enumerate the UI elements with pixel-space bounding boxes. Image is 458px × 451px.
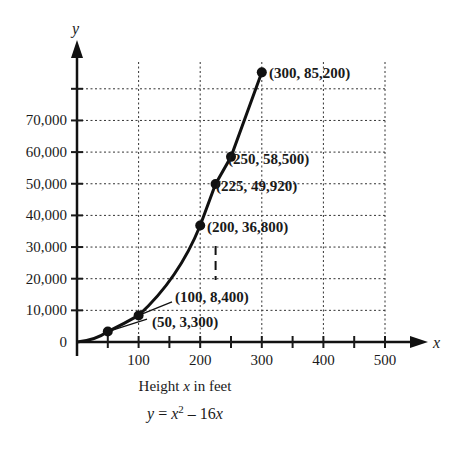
- y-tick-label: 50,000: [26, 176, 67, 192]
- data-point: [134, 310, 144, 320]
- point-label: (200, 36,800): [207, 219, 288, 236]
- x-tick-label: 100: [127, 352, 150, 368]
- y-tick-label: 0: [60, 334, 68, 350]
- point-label: (225, 49,920): [216, 178, 297, 195]
- y-tick-label: 30,000: [26, 239, 67, 255]
- x-axis-arrow-icon: [410, 336, 428, 348]
- point-label: (250, 58,500): [228, 151, 309, 168]
- point-label: (300, 85,200): [269, 65, 350, 82]
- x-axis-title: Height x in feet: [25, 378, 345, 395]
- x-tick-label: 200: [189, 352, 212, 368]
- y-axis-var: y: [70, 20, 80, 38]
- y-tick-label: 10,000: [26, 302, 67, 318]
- data-point: [103, 327, 113, 337]
- y-tick-label: 60,000: [26, 144, 67, 160]
- point-label: (100, 8,400): [175, 289, 249, 306]
- y-tick-label: 20,000: [26, 271, 67, 287]
- y-tick-label: 70,000: [26, 112, 67, 128]
- y-tick-label: 40,000: [26, 207, 67, 223]
- x-tick-label: 500: [374, 352, 397, 368]
- x-axis-var: x: [432, 334, 440, 351]
- x-tick-label: 300: [251, 352, 274, 368]
- y-axis-arrow-icon: [71, 40, 83, 58]
- equation-caption: y = x2 – 16x: [25, 403, 345, 423]
- data-point: [195, 221, 205, 231]
- point-label: (50, 3,300): [152, 314, 218, 331]
- x-tick-label: 400: [312, 352, 335, 368]
- data-point: [257, 67, 267, 77]
